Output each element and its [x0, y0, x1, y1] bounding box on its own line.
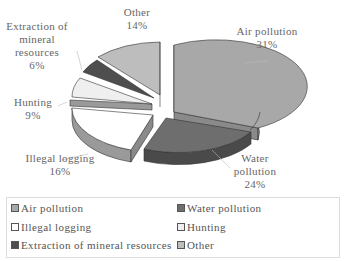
- label-illegal-logging: Illegal logging 16%: [22, 152, 98, 178]
- legend-swatch: [177, 223, 185, 231]
- legend-item-other: Other: [177, 239, 214, 251]
- legend-item-illegal-logging: Illegal logging: [11, 221, 91, 233]
- label-hunting: Hunting 9%: [8, 96, 58, 122]
- legend-swatch: [11, 241, 19, 249]
- legend-item-extraction: Extraction of mineral resources: [11, 239, 172, 251]
- legend-swatch: [177, 204, 185, 212]
- chart-legend: Air pollution Water pollution Illegal lo…: [6, 197, 340, 258]
- legend-item-water-pollution: Water pollution: [177, 202, 261, 214]
- legend-swatch: [11, 223, 19, 231]
- label-water-pollution: Water pollution 24%: [226, 152, 284, 191]
- label-air-pollution: Air pollution 31%: [232, 25, 302, 51]
- label-other: Other 14%: [112, 6, 162, 32]
- label-extraction: Extraction of mineral resources 6%: [0, 20, 74, 72]
- legend-swatch: [177, 241, 185, 249]
- legend-item-air-pollution: Air pollution: [11, 202, 83, 214]
- legend-swatch: [11, 204, 19, 212]
- legend-item-hunting: Hunting: [177, 221, 226, 233]
